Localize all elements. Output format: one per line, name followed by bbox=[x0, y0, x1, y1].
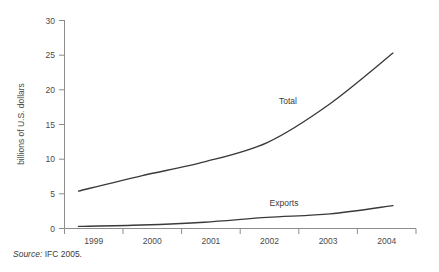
y-tick-marks bbox=[59, 21, 65, 229]
x-tick-label-2003: 2003 bbox=[319, 236, 338, 246]
y-tick-label-20: 20 bbox=[46, 85, 56, 95]
y-tick-label-5: 5 bbox=[50, 189, 55, 199]
x-tick-label-2000: 2000 bbox=[143, 236, 162, 246]
x-tick-label-2002: 2002 bbox=[260, 236, 279, 246]
x-tick-marks bbox=[65, 229, 417, 235]
source-prefix: Source: bbox=[13, 249, 42, 259]
series-label-exports: Exports bbox=[270, 198, 299, 208]
chart-figure: 30 25 20 15 10 5 0 billions of U.S. doll… bbox=[0, 0, 439, 272]
y-tick-label-0: 0 bbox=[50, 224, 55, 234]
y-tick-label-15: 15 bbox=[46, 120, 56, 130]
source-note: Source: IFC 2005. bbox=[13, 249, 82, 259]
x-tick-label-2004: 2004 bbox=[377, 236, 396, 246]
y-tick-label-30: 30 bbox=[46, 16, 56, 26]
series-line-total bbox=[79, 53, 394, 191]
series-line-exports bbox=[79, 206, 394, 227]
series-label-total: Total bbox=[279, 96, 297, 106]
y-tick-label-25: 25 bbox=[46, 50, 56, 60]
x-tick-label-1999: 1999 bbox=[84, 236, 103, 246]
y-axis-title: billions of U.S. dollars bbox=[16, 83, 26, 165]
source-text: IFC 2005. bbox=[42, 249, 82, 259]
line-chart: 30 25 20 15 10 5 0 billions of U.S. doll… bbox=[0, 0, 439, 272]
y-tick-label-10: 10 bbox=[46, 154, 56, 164]
x-tick-label-2001: 2001 bbox=[201, 236, 220, 246]
